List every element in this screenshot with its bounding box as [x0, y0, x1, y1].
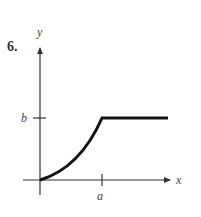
- function-curve: [40, 118, 168, 180]
- a-label: a: [97, 189, 103, 203]
- graph: y x b a: [0, 0, 201, 217]
- x-axis-label: x: [175, 173, 182, 187]
- y-axis-label: y: [36, 25, 43, 39]
- b-label: b: [21, 111, 27, 125]
